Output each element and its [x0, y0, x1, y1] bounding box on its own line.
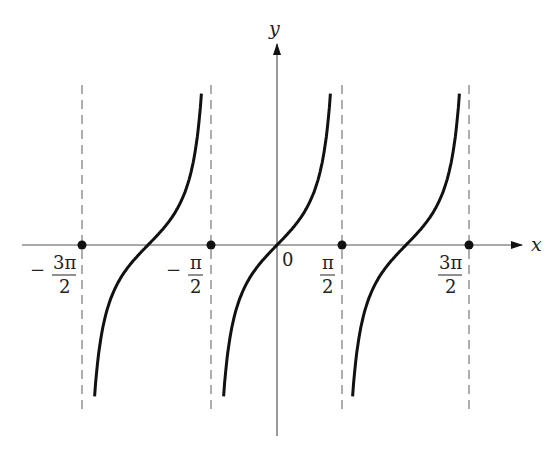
tick-sign: −	[30, 259, 45, 280]
point-pi-2	[338, 241, 347, 250]
tick-sign: −	[166, 259, 181, 280]
tick-numerator: π	[190, 252, 202, 273]
tick-denominator: 2	[445, 276, 456, 297]
tick-denominator: 2	[59, 276, 70, 297]
tangent-graph: x y 0 − 3π 2 − π 2 π 2 3π 2	[0, 0, 556, 454]
y-axis-label: y	[268, 17, 280, 39]
point-3pi-2	[465, 241, 474, 250]
tick-numerator: 3π	[439, 252, 462, 273]
x-axis-label: x	[531, 233, 542, 255]
point-neg-pi-2	[207, 241, 216, 250]
asymptotes	[82, 85, 469, 413]
tick-label-neg-3pi-2: − 3π 2	[30, 252, 76, 297]
point-neg-3pi-2	[78, 241, 87, 250]
tick-denominator: 2	[190, 276, 201, 297]
tick-numerator: π	[322, 252, 334, 273]
origin-label: 0	[282, 249, 293, 270]
tick-label-3pi-2: 3π 2	[438, 252, 462, 297]
tick-label-pi-2: π 2	[320, 252, 335, 297]
tick-numerator: 3π	[53, 252, 76, 273]
tick-label-neg-pi-2: − π 2	[166, 252, 203, 297]
tick-denominator: 2	[322, 276, 333, 297]
